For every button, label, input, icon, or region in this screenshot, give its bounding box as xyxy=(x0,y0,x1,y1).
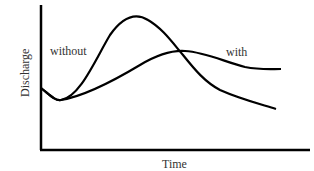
label-without: without xyxy=(50,44,87,59)
label-with: with xyxy=(226,45,247,60)
x-axis-label: Time xyxy=(162,157,187,171)
hydrograph-chart xyxy=(0,0,314,171)
y-axis-label: Discharge xyxy=(18,49,33,97)
